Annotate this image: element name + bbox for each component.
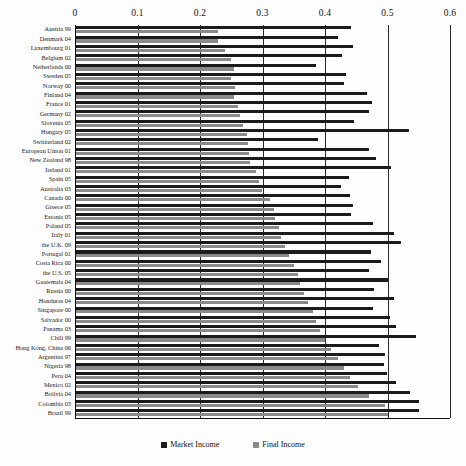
bar-market-income (75, 185, 341, 188)
bar-final-income (75, 161, 250, 164)
bar-market-income (75, 45, 353, 48)
bar-row (75, 315, 450, 324)
bar-market-income (75, 372, 387, 375)
bar-final-income (75, 95, 234, 98)
bar-final-income (75, 394, 369, 397)
legend-label-market-income: Market Income (170, 440, 219, 449)
bar-row (75, 399, 450, 408)
bar-final-income (75, 292, 304, 295)
bar-final-income (75, 189, 262, 192)
bar-row (75, 324, 450, 333)
bar-final-income (75, 329, 320, 332)
y-label-2: Luxembourg 01 (31, 45, 71, 51)
y-label-18: Canada 00 (44, 195, 71, 201)
bar-market-income (75, 166, 391, 169)
y-label-24: Portugal 01 (42, 251, 71, 257)
bar-market-income (75, 138, 318, 141)
bar-final-income (75, 77, 231, 80)
bar-row (75, 259, 450, 268)
bar-market-income (75, 335, 416, 338)
bar-market-income (75, 26, 351, 29)
bar-row (75, 287, 450, 296)
y-axis-line (75, 25, 76, 418)
y-label-12: Switzerland 02 (33, 139, 71, 145)
y-label-35: Argentina 97 (38, 354, 71, 360)
bar-row (75, 221, 450, 230)
bar-final-income (75, 124, 243, 127)
bar-row (75, 118, 450, 127)
y-label-31: Salvador 00 (41, 317, 71, 323)
bar-row (75, 212, 450, 221)
bar-row (75, 333, 450, 342)
x-tick-label-0: 0 (73, 8, 78, 18)
bar-market-income (75, 120, 354, 123)
bar-market-income (75, 241, 401, 244)
bar-market-income (75, 381, 396, 384)
bar-final-income (75, 67, 234, 70)
bar-market-income (75, 110, 369, 113)
bar-final-income (75, 273, 298, 276)
bar-row (75, 380, 450, 389)
bar-final-income (75, 413, 388, 416)
bar-row (75, 100, 450, 109)
bar-final-income (75, 217, 275, 220)
bar-row (75, 128, 450, 137)
bar-market-income (75, 92, 367, 95)
bar-row (75, 62, 450, 71)
bar-row (75, 81, 450, 90)
y-label-37: Peru 04 (52, 373, 71, 379)
bar-market-income (75, 363, 384, 366)
bar-row (75, 305, 450, 314)
bar-market-income (75, 269, 369, 272)
x-tick-label-6: 0.6 (444, 8, 456, 18)
bar-row (75, 371, 450, 380)
y-label-27: Guatemala 04 (36, 279, 71, 285)
y-label-8: France 01 (46, 101, 71, 107)
bar-market-income (75, 222, 373, 225)
bar-market-income (75, 148, 369, 151)
y-label-28: Russia 00 (46, 288, 71, 294)
bar-row (75, 175, 450, 184)
bar-market-income (75, 204, 353, 207)
bar-final-income (75, 198, 270, 201)
y-label-4: Netherlands 00 (33, 64, 71, 70)
y-label-26: the U.S. 05 (43, 270, 71, 276)
y-label-23: the U.K. 09 (42, 242, 71, 248)
x-axis-line (75, 418, 450, 419)
x-axis-tick-labels: 00.10.20.30.40.50.6 (0, 8, 466, 24)
bar-market-income (75, 297, 394, 300)
bar-row (75, 193, 450, 202)
bar-final-income (75, 404, 385, 407)
bar-market-income (75, 250, 371, 253)
bar-market-income (75, 391, 410, 394)
bar-row (75, 165, 450, 174)
bar-final-income (75, 208, 274, 211)
y-label-17: Australia 03 (40, 186, 71, 192)
y-label-33: Chili 99 (51, 335, 71, 341)
bar-final-income (75, 338, 325, 341)
bar-row (75, 268, 450, 277)
y-label-16: Spain 05 (49, 176, 71, 182)
bar-final-income (75, 264, 294, 267)
bar-row (75, 361, 450, 370)
bar-row (75, 137, 450, 146)
bar-market-income (75, 325, 396, 328)
bar-row (75, 277, 450, 286)
plot-area (75, 25, 450, 418)
bar-final-income (75, 105, 238, 108)
bar-market-income (75, 157, 376, 160)
y-label-22: Italy 01 (52, 232, 71, 238)
bar-row (75, 352, 450, 361)
bar-market-income (75, 129, 409, 132)
bar-final-income (75, 30, 218, 33)
bar-row (75, 109, 450, 118)
bar-market-income (75, 344, 379, 347)
y-label-21: Poland 05 (46, 223, 71, 229)
bar-row (75, 90, 450, 99)
bar-final-income (75, 226, 279, 229)
y-label-10: Slovenia 05 (41, 120, 71, 126)
bar-final-income (75, 366, 344, 369)
legend-swatch-final-income (253, 442, 259, 448)
y-label-7: Finland 04 (44, 92, 71, 98)
x-tick-label-5: 0.5 (381, 8, 393, 18)
